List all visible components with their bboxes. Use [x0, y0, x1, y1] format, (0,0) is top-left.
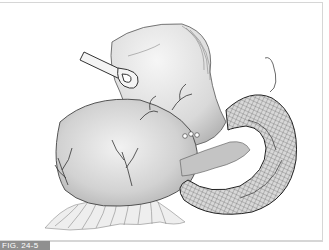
figure-label: FIG. 24-5 — [0, 241, 50, 250]
figure-divider — [50, 241, 323, 242]
suture-thread — [265, 58, 276, 92]
